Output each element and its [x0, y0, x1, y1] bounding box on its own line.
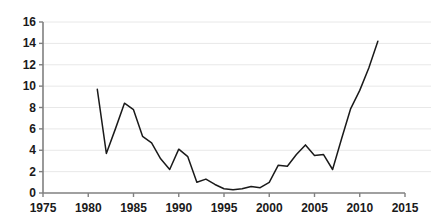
y-tick-label: 16: [23, 16, 36, 28]
x-tick-label: 2005: [291, 202, 339, 214]
x-tick-label: 1980: [64, 202, 112, 214]
y-tick-label: 8: [29, 102, 36, 114]
y-tick-label: 4: [29, 144, 36, 156]
data-series-line: [97, 41, 378, 190]
y-tick-label: 0: [29, 187, 36, 199]
x-tick-label: 2015: [381, 202, 429, 214]
x-tick-label: 1990: [155, 202, 203, 214]
x-tick-label: 1995: [200, 202, 248, 214]
x-tick-label: 1985: [110, 202, 158, 214]
y-tick-label: 14: [23, 37, 36, 49]
x-tick-label: 2000: [245, 202, 293, 214]
y-tick-label: 12: [23, 59, 36, 71]
line-chart: 0246810121416 19751980198519901995200020…: [0, 0, 435, 222]
y-tick-label: 10: [23, 80, 36, 92]
y-tick-label: 6: [29, 123, 36, 135]
gridlines: [43, 22, 431, 172]
y-tick-label: 2: [29, 166, 36, 178]
x-tick-label: 1975: [19, 202, 67, 214]
x-tick-label: 2010: [336, 202, 384, 214]
chart-plot-area: [0, 0, 435, 222]
